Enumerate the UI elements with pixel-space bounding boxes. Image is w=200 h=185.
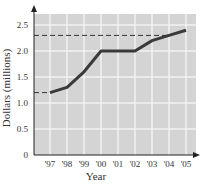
y-axis-label: Dollars (millions)	[0, 48, 13, 127]
x-tick-label: '98	[62, 159, 73, 169]
line-chart: 00.51.01.52.02.5 '97'98'99'00'01'02'03'0…	[0, 0, 200, 185]
y-tick-label: 0	[24, 150, 29, 160]
x-axis-arrow-icon	[193, 152, 200, 158]
y-tick-labels: 00.51.01.52.02.5	[17, 20, 29, 160]
x-axis-label: Year	[86, 170, 107, 182]
y-tick-label: 1.5	[17, 72, 29, 82]
y-tick-label: 0.5	[17, 124, 29, 134]
x-tick-label: '02	[130, 159, 141, 169]
y-tick-label: 2.5	[17, 20, 29, 30]
x-tick-label: '00	[96, 159, 107, 169]
x-tick-label: '04	[164, 159, 175, 169]
y-axis-arrow-icon	[31, 5, 37, 12]
x-tick-label: '01	[113, 159, 124, 169]
y-tick-label: 1.0	[17, 98, 29, 108]
x-tick-label: '05	[181, 159, 192, 169]
x-tick-label: '99	[79, 159, 90, 169]
x-tick-label: '03	[147, 159, 158, 169]
y-tick-label: 2.0	[17, 46, 29, 56]
x-tick-labels: '97'98'99'00'01'02'03'04'05	[45, 159, 192, 169]
x-tick-label: '97	[45, 159, 56, 169]
